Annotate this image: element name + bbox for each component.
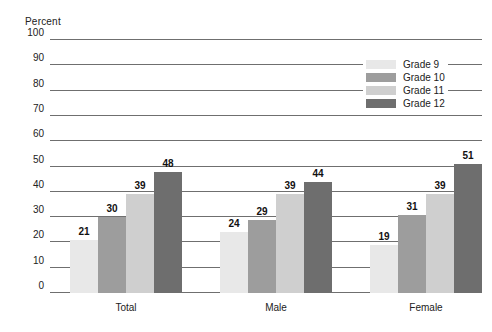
y-axis-tick-label: 20 bbox=[33, 229, 44, 241]
y-axis-tick-label: 80 bbox=[33, 78, 44, 90]
y-axis-tick-label: 40 bbox=[33, 179, 44, 191]
x-axis-category-label: Total bbox=[115, 302, 136, 313]
legend-swatch bbox=[366, 73, 396, 82]
bar-column[interactable]: 44 bbox=[304, 40, 332, 293]
bar[interactable] bbox=[154, 172, 182, 293]
bar-column[interactable]: 48 bbox=[154, 40, 182, 293]
bar-value-label: 39 bbox=[434, 180, 445, 191]
y-axis-tick-label: 10 bbox=[33, 255, 44, 267]
bar[interactable] bbox=[276, 194, 304, 293]
legend-item[interactable]: Grade 12 bbox=[366, 97, 445, 109]
bar-column[interactable]: 51 bbox=[454, 40, 482, 293]
y-axis-tick-label: 0 bbox=[38, 280, 44, 292]
bar[interactable] bbox=[304, 182, 332, 293]
bar[interactable] bbox=[70, 240, 98, 293]
bar-group: 24293944Male bbox=[220, 40, 332, 293]
bar-value-label: 24 bbox=[228, 218, 239, 229]
legend-item[interactable]: Grade 9 bbox=[366, 58, 445, 70]
y-axis-tick-label: 60 bbox=[33, 128, 44, 140]
bar-value-label: 19 bbox=[378, 231, 389, 242]
legend-label: Grade 9 bbox=[403, 59, 439, 70]
bar-value-label: 21 bbox=[78, 226, 89, 237]
bar-value-label: 39 bbox=[134, 180, 145, 191]
bar-column[interactable]: 30 bbox=[98, 40, 126, 293]
legend-item[interactable]: Grade 10 bbox=[366, 71, 445, 83]
bar-column[interactable]: 39 bbox=[126, 40, 154, 293]
y-axis-tick-label: 90 bbox=[33, 52, 44, 64]
bar[interactable] bbox=[248, 220, 276, 293]
legend-label: Grade 10 bbox=[403, 72, 445, 83]
bar-value-label: 39 bbox=[284, 180, 295, 191]
y-axis-tick-label: 100 bbox=[27, 27, 44, 39]
bar-chart: Percent 0102030405060708090100 21303948T… bbox=[0, 0, 492, 332]
bar[interactable] bbox=[398, 215, 426, 293]
bar-value-label: 44 bbox=[312, 168, 323, 179]
bar-value-label: 31 bbox=[406, 201, 417, 212]
legend-item[interactable]: Grade 11 bbox=[366, 84, 445, 96]
bar[interactable] bbox=[126, 194, 154, 293]
legend-label: Grade 11 bbox=[403, 85, 444, 96]
legend-swatch bbox=[366, 99, 396, 108]
y-axis-title: Percent bbox=[25, 16, 61, 27]
bar-column[interactable]: 24 bbox=[220, 40, 248, 293]
x-axis-category-label: Male bbox=[265, 302, 287, 313]
bar[interactable] bbox=[98, 217, 126, 293]
bar-column[interactable]: 21 bbox=[70, 40, 98, 293]
bar[interactable] bbox=[220, 232, 248, 293]
legend-swatch bbox=[366, 86, 396, 95]
y-axis-tick-label: 50 bbox=[33, 154, 44, 166]
bar-value-label: 48 bbox=[162, 158, 173, 169]
bar-group: 21303948Total bbox=[70, 40, 182, 293]
bar-column[interactable]: 29 bbox=[248, 40, 276, 293]
bar[interactable] bbox=[454, 164, 482, 293]
bar-value-label: 29 bbox=[256, 206, 267, 217]
legend-swatch bbox=[366, 60, 396, 69]
bar[interactable] bbox=[370, 245, 398, 293]
legend-label: Grade 12 bbox=[403, 98, 445, 109]
x-axis-category-label: Female bbox=[409, 302, 442, 313]
bar-column[interactable]: 39 bbox=[276, 40, 304, 293]
bar-value-label: 30 bbox=[106, 203, 117, 214]
y-axis-tick-label: 30 bbox=[33, 204, 44, 216]
bar[interactable] bbox=[426, 194, 454, 293]
legend: Grade 9Grade 10Grade 11Grade 12 bbox=[363, 56, 448, 113]
bar-value-label: 51 bbox=[462, 150, 473, 161]
y-axis-tick-label: 70 bbox=[33, 103, 44, 115]
